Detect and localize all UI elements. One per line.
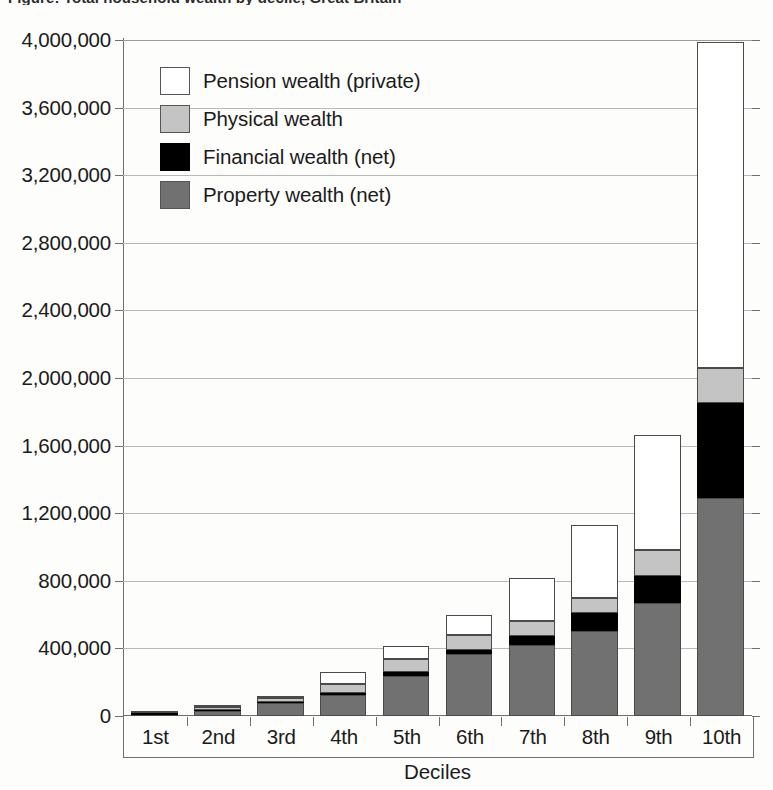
bar-segment xyxy=(697,42,744,368)
bar-segment xyxy=(194,707,241,710)
x-tick-label-3rd: 3rd xyxy=(250,725,313,749)
legend-label: Pension wealth (private) xyxy=(203,69,421,93)
x-tick-label-10th: 10th xyxy=(690,725,753,749)
x-tick-label-5th: 5th xyxy=(376,725,439,749)
y-tick-mark xyxy=(115,648,123,649)
y-tick-label: 3,600,000 xyxy=(0,96,111,120)
x-tick-label-7th: 7th xyxy=(501,725,564,749)
y-tick-mark-right xyxy=(752,243,760,244)
x-tick-label-4th: 4th xyxy=(313,725,376,749)
y-tick-mark xyxy=(115,310,123,311)
bar-segment xyxy=(509,645,556,716)
bar-segment xyxy=(509,621,556,635)
bar-10th[interactable] xyxy=(697,40,744,716)
y-tick-mark xyxy=(115,40,123,41)
bar-segment xyxy=(383,659,430,673)
y-tick-label: 800,000 xyxy=(0,569,111,593)
bar-segment xyxy=(320,695,367,716)
y-tick-label: 2,000,000 xyxy=(0,366,111,390)
x-tick-label-8th: 8th xyxy=(564,725,627,749)
bar-segment xyxy=(446,654,493,716)
bar-segment xyxy=(383,672,430,676)
y-tick-mark xyxy=(115,581,123,582)
figure-title: Figure: Total household wealth by decile… xyxy=(8,0,768,5)
y-tick-mark xyxy=(115,513,123,514)
legend-label: Financial wealth (net) xyxy=(203,145,396,169)
bar-segment xyxy=(634,550,681,576)
bar-segment xyxy=(194,705,241,707)
y-tick-mark-right xyxy=(752,648,760,649)
legend-item-pension[interactable]: Pension wealth (private) xyxy=(160,62,421,100)
chart-page: Figure: Total household wealth by decile… xyxy=(0,0,773,790)
bar-segment xyxy=(571,598,618,613)
y-tick-mark xyxy=(115,378,123,379)
bar-segment xyxy=(320,672,367,683)
y-tick-label: 1,600,000 xyxy=(0,434,111,458)
legend-item-financial[interactable]: Financial wealth (net) xyxy=(160,138,421,176)
bar-segment xyxy=(571,613,618,631)
legend-swatch-property xyxy=(160,181,190,209)
bar-segment xyxy=(383,676,430,716)
y-tick-mark xyxy=(115,446,123,447)
y-tick-mark-right xyxy=(752,40,760,41)
x-tick-label-6th: 6th xyxy=(439,725,502,749)
y-tick-mark xyxy=(115,108,123,109)
legend-item-property[interactable]: Property wealth (net) xyxy=(160,176,421,214)
bar-segment xyxy=(257,696,304,698)
bar-segment xyxy=(320,693,367,695)
legend-label: Property wealth (net) xyxy=(203,183,391,207)
x-axis-title: Deciles xyxy=(123,760,752,784)
y-tick-label: 2,800,000 xyxy=(0,231,111,255)
x-tick-label-1st: 1st xyxy=(124,725,187,749)
y-tick-mark-right xyxy=(752,175,760,176)
bar-segment xyxy=(257,703,304,716)
bar-segment xyxy=(697,368,744,403)
y-tick-mark xyxy=(115,243,123,244)
y-tick-label: 1,200,000 xyxy=(0,501,111,525)
y-tick-mark-right xyxy=(752,513,760,514)
bar-segment xyxy=(446,615,493,636)
legend-item-physical[interactable]: Physical wealth xyxy=(160,100,421,138)
bar-segment xyxy=(320,684,367,693)
bar-6th[interactable] xyxy=(446,40,493,716)
bar-segment xyxy=(131,711,178,713)
bar-segment xyxy=(634,435,681,549)
y-tick-label: 2,400,000 xyxy=(0,298,111,322)
legend-label: Physical wealth xyxy=(203,107,343,131)
legend: Pension wealth (private)Physical wealthF… xyxy=(160,62,421,214)
y-tick-mark-right xyxy=(752,378,760,379)
bar-segment xyxy=(446,650,493,655)
y-tick-mark-right xyxy=(752,581,760,582)
legend-swatch-physical xyxy=(160,105,190,133)
y-tick-mark-right xyxy=(752,446,760,447)
legend-swatch-financial xyxy=(160,143,190,171)
bar-segment xyxy=(383,646,430,659)
bar-segment xyxy=(634,603,681,716)
y-tick-mark xyxy=(115,175,123,176)
y-tick-label: 0 xyxy=(0,704,111,728)
bar-7th[interactable] xyxy=(509,40,556,716)
bar-8th[interactable] xyxy=(571,40,618,716)
bar-segment xyxy=(194,711,241,716)
bar-9th[interactable] xyxy=(634,40,681,716)
x-axis-band: 1st2nd3rd4th5th6th7th8th9th10th xyxy=(123,717,754,758)
y-tick-mark xyxy=(115,716,123,717)
y-tick-label: 3,200,000 xyxy=(0,163,111,187)
bar-segment xyxy=(697,498,744,716)
x-tick-label-2nd: 2nd xyxy=(187,725,250,749)
y-tick-label: 400,000 xyxy=(0,636,111,660)
bar-segment xyxy=(634,576,681,603)
y-tick-mark-right xyxy=(752,108,760,109)
bar-segment xyxy=(446,635,493,649)
legend-swatch-pension xyxy=(160,67,190,95)
y-tick-label: 4,000,000 xyxy=(0,28,111,52)
bar-segment xyxy=(509,578,556,621)
bar-segment xyxy=(571,525,618,598)
bar-segment xyxy=(697,403,744,498)
bar-segment xyxy=(257,698,304,702)
x-tick-label-9th: 9th xyxy=(627,725,690,749)
y-tick-mark-right xyxy=(752,310,760,311)
bar-segment xyxy=(509,636,556,645)
bar-segment xyxy=(571,631,618,716)
